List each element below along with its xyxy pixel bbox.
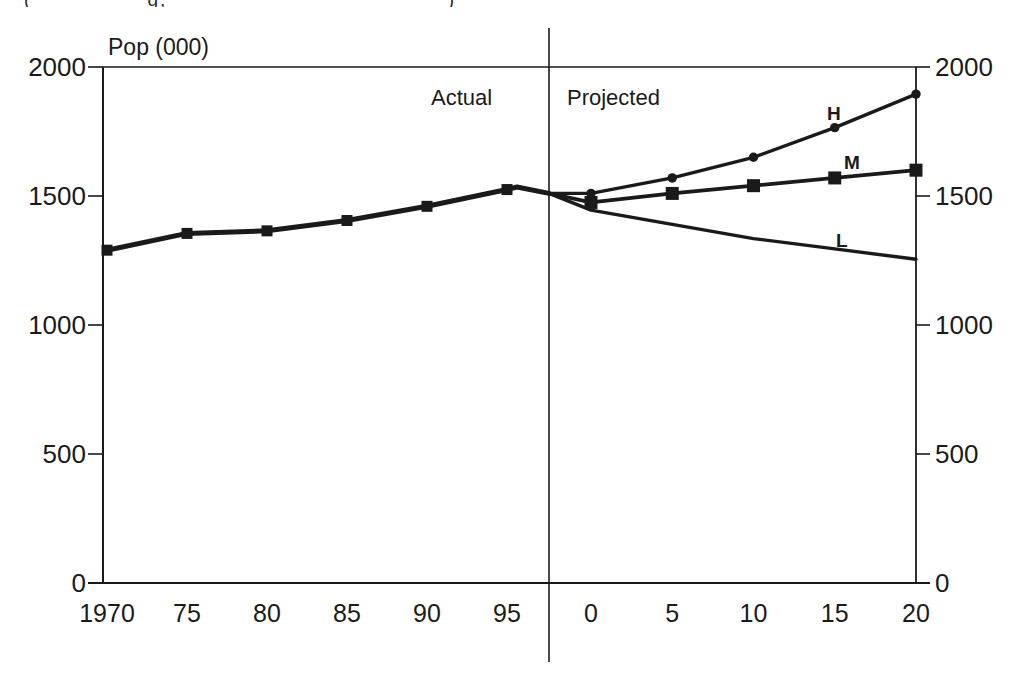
x-tick-label-actual: 95 bbox=[493, 599, 521, 627]
series-label-medium: M bbox=[844, 152, 860, 174]
x-tick-label-actual: 80 bbox=[253, 599, 281, 627]
y-tick-label-left: 1500 bbox=[28, 181, 86, 211]
y-tick-label-left: 0 bbox=[72, 568, 86, 598]
marker-circle-high bbox=[668, 173, 677, 182]
marker-square-actual bbox=[102, 245, 113, 256]
y-tick-label-right: 1500 bbox=[935, 181, 993, 211]
x-tick-label-actual: 90 bbox=[413, 599, 441, 627]
marker-square-actual bbox=[262, 225, 273, 236]
series-label-high: H bbox=[827, 103, 841, 125]
y-tick-label-right: 500 bbox=[935, 439, 978, 469]
x-tick-label-projected: 15 bbox=[821, 599, 849, 627]
x-tick-label-projected: 5 bbox=[665, 599, 679, 627]
section-label-projected: Projected bbox=[567, 85, 660, 111]
y-tick-label-right: 0 bbox=[935, 568, 949, 598]
y-tick-label-left: 1000 bbox=[28, 310, 86, 340]
x-tick-label-actual: 75 bbox=[173, 599, 201, 627]
clipped-top-caption: (____ ____ g, _____ ____ ____ _______) bbox=[24, 0, 474, 7]
marker-square-medium bbox=[585, 196, 598, 209]
clipped-top-caption-text: (____ ____ g, _____ ____ ____ _______) bbox=[24, 0, 474, 7]
x-tick-label-projected: 20 bbox=[902, 599, 930, 627]
series-low-line bbox=[549, 193, 916, 259]
marker-circle-high bbox=[749, 153, 758, 162]
population-projection-figure: (____ ____ g, _____ ____ ____ _______) 0… bbox=[0, 0, 1022, 679]
x-tick-label-actual: 1970 bbox=[79, 599, 135, 627]
y-tick-label-right: 1000 bbox=[935, 310, 993, 340]
population-line-chart: 0050050010001000150015002000200019707580… bbox=[0, 0, 1022, 679]
marker-square-actual bbox=[342, 215, 353, 226]
section-label-actual: Actual bbox=[431, 85, 492, 111]
y-tick-label-left: 500 bbox=[43, 439, 86, 469]
marker-square-actual bbox=[422, 201, 433, 212]
x-tick-label-projected: 0 bbox=[584, 599, 598, 627]
marker-square-medium bbox=[910, 164, 923, 177]
marker-square-medium bbox=[666, 187, 679, 200]
y-tick-label-left: 2000 bbox=[28, 52, 86, 82]
y-tick-label-right: 2000 bbox=[935, 52, 993, 82]
series-medium-line bbox=[549, 170, 916, 202]
marker-square-medium bbox=[828, 171, 841, 184]
series-actual-line bbox=[107, 187, 549, 250]
x-tick-label-projected: 10 bbox=[740, 599, 768, 627]
marker-square-medium bbox=[747, 179, 760, 192]
marker-square-actual bbox=[502, 184, 513, 195]
marker-circle-high bbox=[911, 89, 920, 98]
x-tick-label-actual: 85 bbox=[333, 599, 361, 627]
y-axis-unit-label: Pop (000) bbox=[108, 34, 209, 61]
series-label-low: L bbox=[836, 230, 848, 252]
marker-square-actual bbox=[182, 228, 193, 239]
